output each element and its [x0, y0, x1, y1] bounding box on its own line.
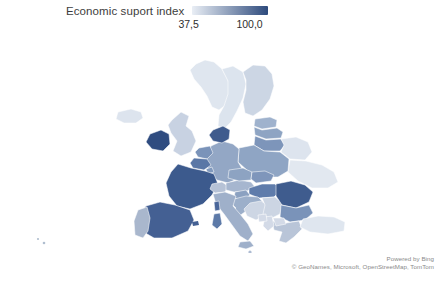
- legend-min-label: 37,5: [178, 18, 198, 30]
- island-malta[interactable]: [248, 250, 251, 253]
- island-sardinia[interactable]: [212, 213, 222, 229]
- choropleth-map[interactable]: [0, 38, 437, 253]
- country-switzerland[interactable]: [210, 182, 228, 193]
- country-montenegro[interactable]: [258, 214, 267, 222]
- country-turkey[interactable]: [300, 216, 345, 234]
- country-denmark[interactable]: [209, 126, 230, 143]
- map-attribution: Powered by Bing © GeoNames, Microsoft, O…: [292, 255, 434, 271]
- europe-map-svg: [0, 38, 437, 253]
- country-estonia[interactable]: [254, 117, 277, 129]
- legend-tick-labels: 37,5 100,0: [192, 18, 268, 32]
- island-azores-2[interactable]: [37, 238, 39, 240]
- country-iceland[interactable]: [116, 109, 143, 123]
- attribution-powered-by: Powered by Bing: [292, 255, 434, 263]
- legend-max-label: 100,0: [236, 18, 262, 30]
- legend-title: Economic suport index: [66, 4, 184, 19]
- legend-scale: 37,5 100,0: [192, 4, 268, 32]
- island-corsica[interactable]: [214, 201, 220, 211]
- country-norway[interactable]: [190, 60, 231, 110]
- attribution-sources: © GeoNames, Microsoft, OpenStreetMap, To…: [292, 263, 434, 271]
- island-sicily[interactable]: [238, 241, 254, 249]
- legend-gradient-bar: [192, 6, 268, 15]
- country-united-kingdom[interactable]: [168, 112, 196, 156]
- country-ireland[interactable]: [146, 130, 170, 151]
- country-finland[interactable]: [243, 65, 274, 116]
- island-azores[interactable]: [43, 242, 46, 245]
- map-legend: Economic suport index 37,5 100,0: [66, 4, 268, 32]
- map-visualization: Economic suport index 37,5 100,0: [0, 0, 437, 283]
